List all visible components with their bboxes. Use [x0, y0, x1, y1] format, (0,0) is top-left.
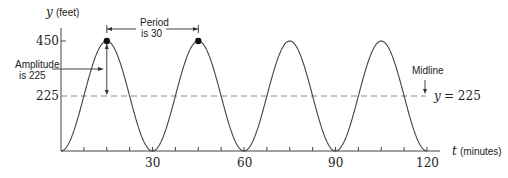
x-axis-var: t — [452, 144, 457, 158]
y-axis-unit: (feet) — [56, 7, 79, 18]
chart: y (feet) 450 225 30 60 90 120 t (minutes… — [0, 0, 508, 178]
x-tick-label-30: 30 — [145, 156, 160, 170]
x-tick-label-90: 90 — [328, 156, 343, 170]
amplitude-label-2: is 225 — [19, 70, 46, 81]
amplitude-pointer-arrow-icon — [98, 67, 104, 71]
period-right-arrow-icon — [193, 27, 198, 31]
x-tick-label-120: 120 — [416, 156, 439, 170]
amplitude-down-arrow-icon — [105, 90, 109, 95]
x-ticks — [84, 147, 427, 151]
y-tick-label-450: 450 — [36, 34, 59, 48]
peak-point-2 — [195, 38, 201, 44]
x-tick-label-60: 60 — [237, 156, 252, 170]
midline-label: Midline — [412, 65, 444, 76]
peak-point-1 — [104, 38, 110, 44]
period-left-arrow-icon — [107, 27, 112, 31]
midline-arrow-icon — [423, 89, 427, 94]
amplitude-up-arrow-icon — [105, 44, 109, 49]
x-axis-unit: (minutes) — [460, 146, 502, 157]
y-tick-label-225: 225 — [36, 89, 59, 103]
midline-eq-lhs: y — [433, 89, 441, 103]
y-axis-var: y — [45, 5, 53, 19]
midline-eq-rhs: = 225 — [444, 89, 481, 103]
period-label-1: Period — [140, 17, 169, 28]
period-label-2: is 30 — [141, 28, 163, 39]
amplitude-label-1: Amplitude — [15, 59, 60, 70]
